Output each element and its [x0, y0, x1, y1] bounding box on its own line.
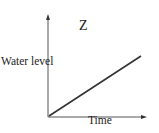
x-axis-label: Time	[88, 114, 112, 126]
chart-title: Z	[79, 18, 88, 34]
chart: Z Water level Time	[0, 0, 159, 133]
water-level-line	[49, 56, 141, 116]
x-axis-arrow-icon	[141, 115, 147, 119]
y-axis-label: Water level	[1, 55, 53, 67]
y-axis-arrow-icon	[46, 14, 50, 20]
